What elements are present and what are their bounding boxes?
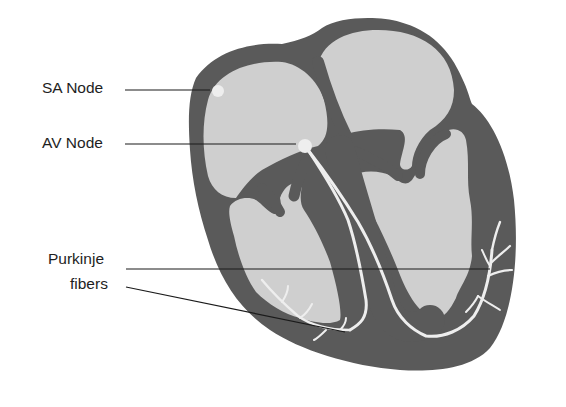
heart-illustration [0,0,566,407]
sa-node-label: SA Node [42,80,103,96]
sa-node-dot [212,85,224,97]
av-node-dot [298,139,312,153]
heart-diagram: SA Node AV Node Purkinje fibers [0,0,566,407]
purkinje-label-line2: fibers [70,276,108,292]
purkinje-label-line1: Purkinje [48,251,104,267]
av-node-label: AV Node [42,135,103,151]
